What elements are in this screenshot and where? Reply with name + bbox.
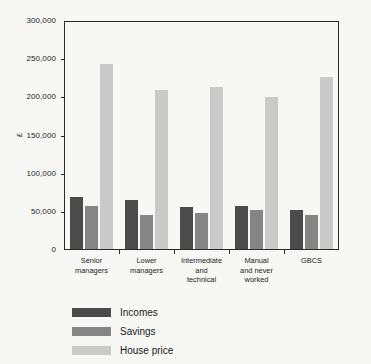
- y-axis-tick-label: 300,000: [26, 17, 56, 25]
- x-axis-tick-mark: [284, 250, 285, 254]
- legend-label: House price: [120, 345, 173, 356]
- legend-label: Incomes: [120, 307, 158, 318]
- y-axis-tick-label: 250,000: [26, 55, 56, 63]
- legend-item: Incomes: [72, 304, 272, 320]
- chart-legend: IncomesSavingsHouse price: [72, 304, 272, 361]
- legend-swatch: [72, 308, 111, 317]
- y-axis-tick-label: 200,000: [26, 93, 56, 101]
- bar-chart-figure: £ 050,000100,000150,000200,000250,000300…: [0, 0, 371, 364]
- x-axis-category-label: Intermediate and technical: [174, 256, 229, 285]
- x-axis-category-label: Manual and never worked: [229, 256, 284, 285]
- y-axis-tick-labels: 050,000100,000150,000200,000250,000300,0…: [0, 0, 62, 364]
- legend-item: Savings: [72, 323, 272, 339]
- legend-swatch: [72, 346, 111, 355]
- x-axis-category-labels: Senior managersLower managersIntermediat…: [64, 256, 339, 300]
- legend-label: Savings: [120, 326, 156, 337]
- y-axis-tick-label: 50,000: [31, 208, 56, 216]
- x-axis-category-label: Senior managers: [64, 256, 119, 275]
- legend-item: House price: [72, 342, 272, 358]
- x-axis-tick-mark: [119, 250, 120, 254]
- x-axis-category-label: GBCS: [284, 256, 339, 266]
- y-axis-tick-label: 150,000: [26, 132, 56, 140]
- legend-swatch: [72, 327, 111, 336]
- y-axis-tick-label: 0: [51, 246, 56, 254]
- x-axis-category-label: Lower managers: [119, 256, 174, 275]
- x-axis-tick-mark: [174, 250, 175, 254]
- y-axis-tick-label: 100,000: [26, 170, 56, 178]
- x-axis-tick-mark: [229, 250, 230, 254]
- plot-frame-border: [64, 21, 339, 250]
